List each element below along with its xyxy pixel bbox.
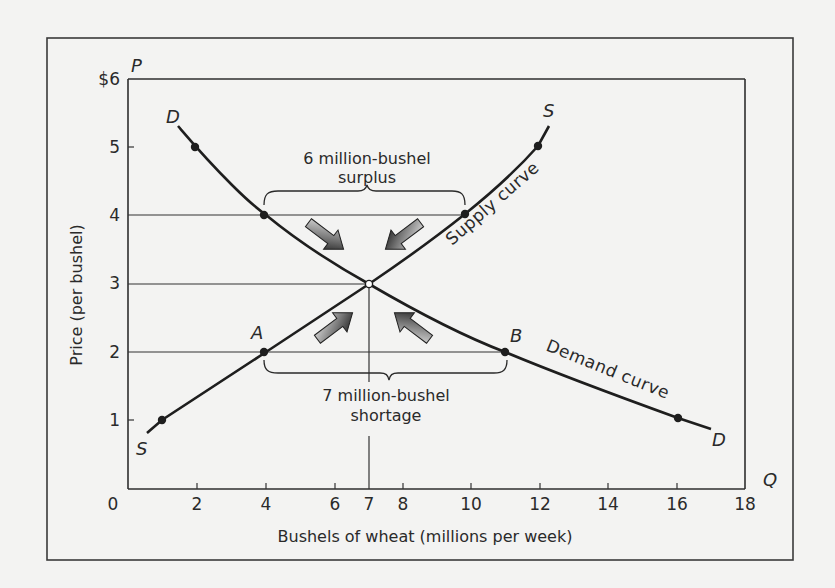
- curve-points: [158, 142, 682, 424]
- shortage-label-line1: 7 million-bushel: [322, 386, 449, 405]
- point-a-label: A: [250, 322, 263, 343]
- arrow-down-right-icon: [301, 213, 351, 259]
- x-tick-10: 10: [460, 494, 482, 514]
- surplus-label-line1: 6 million-bushel: [303, 149, 430, 168]
- arrow-down-left-icon: [378, 213, 428, 259]
- x-axis-symbol: Q: [763, 469, 777, 490]
- y-axis-symbol: P: [131, 55, 142, 76]
- figure-frame: [47, 38, 793, 560]
- surplus-brace: [264, 185, 465, 205]
- demand-point-2-5: [191, 143, 199, 151]
- x-tick-2: 2: [192, 494, 203, 514]
- x-ticks: [197, 483, 677, 489]
- supply-label-top: S: [543, 100, 554, 121]
- arrow-up-left-icon: [387, 303, 437, 349]
- y-tick-4: 4: [109, 205, 120, 225]
- demand-point-4-4: [260, 211, 268, 219]
- x-tick-4: 4: [261, 494, 272, 514]
- x-axis-title: Bushels of wheat (millions per week): [278, 527, 573, 546]
- supply-point-1-1: [158, 416, 166, 424]
- point-b-label: B: [510, 325, 522, 346]
- x-tick-12: 12: [529, 494, 551, 514]
- shortage-brace: [264, 360, 507, 380]
- demand-label-top: D: [166, 106, 180, 127]
- supply-demand-chart: $6 5 4 3 2 1 0 2 4 6 7 8 10 12 14 16 18 …: [0, 0, 835, 588]
- y-tick-5: 5: [109, 137, 120, 157]
- supply-point-12-5: [534, 142, 542, 150]
- x-tick-7: 7: [364, 494, 375, 514]
- arrow-up-right-icon: [310, 303, 360, 349]
- demand-point-16-1: [674, 414, 682, 422]
- y-tick-1: 1: [109, 410, 120, 430]
- y-axis-title: Price (per bushel): [67, 224, 86, 365]
- y-tick-2: 2: [109, 342, 120, 362]
- y-tick-3: 3: [109, 273, 120, 293]
- point-b: [501, 348, 509, 356]
- x-tick-18: 18: [734, 494, 756, 514]
- y-tick-6: $6: [98, 69, 120, 89]
- x-tick-16: 16: [666, 494, 688, 514]
- shortage-label-line2: shortage: [351, 406, 422, 425]
- supply-label-bottom: S: [136, 438, 147, 459]
- x-tick-8: 8: [398, 494, 409, 514]
- equilibrium-point: [365, 280, 372, 287]
- x-tick-14: 14: [597, 494, 619, 514]
- point-a: [260, 348, 268, 356]
- surplus-label-line2: surplus: [338, 168, 396, 187]
- x-origin-label: 0: [108, 494, 119, 514]
- x-tick-6: 6: [330, 494, 341, 514]
- x-tick-labels: 0 2 4 6 7 8 10 12 14 16 18: [108, 494, 756, 514]
- demand-label-bottom: D: [712, 429, 726, 450]
- supply-curve-label: Supply curve: [442, 157, 543, 249]
- y-tick-labels: $6 5 4 3 2 1: [98, 69, 120, 430]
- reference-lines: [128, 215, 505, 489]
